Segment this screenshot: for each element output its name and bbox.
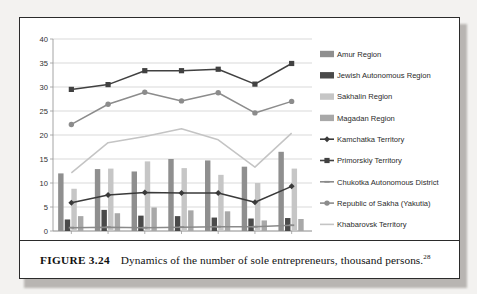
grouped-bar-line-chart: 0510152025303540201020112012201320142015… — [20, 18, 457, 240]
bar — [95, 169, 100, 231]
legend-item: Jewish Autonomous Region — [320, 71, 431, 80]
data-point-marker — [142, 90, 147, 95]
legend-swatch — [320, 93, 334, 99]
data-point-marker — [105, 102, 110, 107]
figure-footnote-marker: 28 — [423, 253, 430, 261]
legend-label: Sakhalin Region — [337, 92, 392, 101]
legend-label: Republic of Sakha (Yakutia) — [337, 199, 431, 208]
bar — [205, 160, 210, 231]
data-point-marker — [324, 200, 329, 205]
bar — [58, 173, 63, 231]
bar — [225, 211, 230, 231]
data-point-marker — [324, 136, 330, 142]
data-point-marker — [252, 82, 257, 87]
legend-swatch — [320, 51, 334, 57]
y-axis-tick-label: 10 — [40, 179, 48, 188]
bar — [115, 213, 120, 231]
chart-area: 0510152025303540201020112012201320142015… — [20, 18, 457, 240]
data-point-marker — [324, 181, 329, 183]
line-series — [71, 129, 291, 173]
data-point-marker — [105, 82, 110, 87]
data-point-marker — [69, 122, 74, 127]
data-point-marker — [252, 226, 257, 228]
data-point-marker — [179, 98, 184, 103]
legend-item: Magadan Region — [320, 114, 395, 123]
data-point-marker — [179, 226, 184, 228]
legend-label: Primorskiy Territory — [337, 156, 402, 165]
legend-item: Khabarovsk Territory — [320, 220, 407, 229]
legend-label: Chukotka Autonomous District — [337, 178, 440, 187]
legend-item: Chukotka Autonomous District — [320, 178, 440, 187]
legend-label: Jewish Autonomous Region — [337, 71, 431, 80]
bar — [218, 175, 223, 231]
y-axis-tick-label: 30 — [40, 83, 48, 92]
y-axis-tick-label: 0 — [44, 227, 48, 236]
y-axis-tick-label: 25 — [40, 107, 48, 116]
figure-caption-bar: FIGURE 3.24Dynamics of the number of sol… — [20, 240, 459, 277]
bar — [298, 219, 303, 231]
legend-item: Amur Region — [320, 50, 381, 59]
bar — [108, 169, 113, 231]
figure-page: 0510152025303540201020112012201320142015… — [0, 0, 477, 294]
data-point-marker — [69, 227, 74, 229]
data-point-marker — [324, 158, 329, 163]
legend-label: Amur Region — [337, 50, 381, 59]
data-point-marker — [179, 68, 184, 73]
legend-item: Kamchatka Territory — [320, 135, 405, 144]
data-point-marker — [216, 90, 221, 95]
data-point-marker — [252, 110, 257, 115]
bar — [145, 161, 150, 231]
data-point-marker — [216, 226, 221, 228]
bar — [248, 219, 253, 231]
bar — [292, 169, 297, 231]
series-line — [71, 92, 291, 124]
data-point-marker — [289, 224, 294, 226]
figure-frame: 0510152025303540201020112012201320142015… — [19, 17, 460, 279]
bar — [255, 183, 260, 231]
legend-item: Republic of Sakha (Yakutia) — [320, 199, 431, 208]
bar — [78, 216, 83, 231]
legend-swatch — [320, 72, 334, 78]
data-point-marker — [142, 227, 147, 229]
line-series — [69, 90, 295, 128]
bar — [168, 159, 173, 231]
bar — [71, 189, 76, 231]
series-line — [71, 63, 291, 89]
bar — [132, 171, 137, 231]
data-point-marker — [289, 99, 294, 104]
data-point-marker — [105, 226, 110, 228]
bar — [188, 210, 193, 231]
data-point-marker — [69, 87, 74, 92]
y-axis-tick-label: 5 — [44, 203, 48, 212]
bar — [182, 168, 187, 231]
y-axis-tick-label: 35 — [40, 59, 48, 68]
figure-caption-text: Dynamics of the number of sole entrepren… — [121, 253, 423, 265]
legend-label: Magadan Region — [337, 114, 395, 123]
y-axis-tick-label: 20 — [40, 131, 48, 140]
figure-caption: FIGURE 3.24Dynamics of the number of sol… — [20, 253, 431, 266]
legend-label: Kamchatka Territory — [337, 135, 405, 144]
bar — [138, 216, 143, 231]
bar — [212, 218, 217, 231]
legend-item: Sakhalin Region — [320, 92, 392, 101]
data-point-marker — [289, 61, 294, 66]
legend-swatch — [320, 115, 334, 121]
y-axis-tick-label: 40 — [40, 35, 48, 44]
legend-item: Primorskiy Territory — [320, 156, 402, 165]
bar — [175, 216, 180, 231]
data-point-marker — [216, 67, 221, 72]
bar — [65, 219, 70, 231]
figure-number: FIGURE 3.24 — [40, 253, 110, 265]
series-line — [71, 129, 291, 173]
y-axis-tick-label: 15 — [40, 155, 48, 164]
data-point-marker — [142, 68, 147, 73]
legend-label: Khabarovsk Territory — [337, 220, 407, 229]
